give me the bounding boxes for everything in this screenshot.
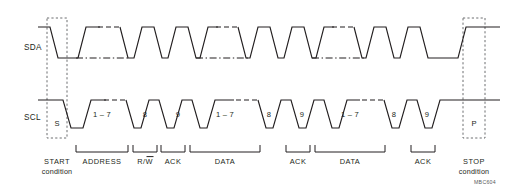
field-label-ack3: ACK [415,157,432,166]
sda-data1-envelope [238,27,334,58]
scl-data2-pulses [384,100,500,128]
start-condition-label-line2: condition [42,167,73,176]
bit-label-data2-ack: 9 [425,110,429,119]
sda-signal-label: SDA [24,43,42,52]
field-label-ack1: ACK [165,157,182,166]
sda-waveform [38,27,500,58]
bracket-ack2 [286,145,310,152]
bit-label-data2-bit8: 8 [392,110,396,119]
bit-label-address-bits: 1 – 7 [93,110,111,119]
figure-code-label: MBC604 [474,179,496,185]
field-labels: ADDRESS R/W ACK DATA ACK DATA ACK [83,157,432,166]
bit-label-data2-bits: 1 – 7 [341,110,359,119]
field-label-rw: R/W [137,157,153,166]
condition-boxes [47,18,485,138]
field-brackets [76,145,435,152]
bit-label-data1-ack: 9 [300,110,304,119]
bracket-address [76,145,128,152]
stop-condition-label-line1: STOP [463,157,485,166]
sda-start-edge [38,27,78,58]
bit-label-address-bit8: 8 [143,110,147,119]
sda-address-bits-envelope [78,27,100,58]
scl-signal-label: SCL [24,113,41,122]
start-marker-label: S [54,119,59,128]
stop-condition-label-line2: condition [459,167,490,176]
sda-address-tail [120,27,218,58]
bracket-data2 [315,145,385,152]
field-label-address: ADDRESS [83,157,122,166]
stop-marker-label: P [471,119,476,128]
field-label-data1: DATA [215,157,235,166]
sda-data2-envelope [354,27,500,58]
field-label-data2: DATA [340,157,360,166]
i2c-timing-diagram: SDA SCL 1 – [0,0,511,188]
bit-label-data1-bit8: 8 [267,110,271,119]
field-label-ack2: ACK [290,157,307,166]
bit-label-data1-bits: 1 – 7 [216,110,234,119]
bracket-rw [133,145,157,152]
bracket-data1 [190,145,260,152]
bit-label-address-ack: 9 [176,110,180,119]
start-condition-label-line1: START [44,157,70,166]
bracket-ack3 [411,145,435,152]
bracket-ack1 [161,145,185,152]
timing-diagram-canvas: SDA SCL 1 – [0,0,511,188]
